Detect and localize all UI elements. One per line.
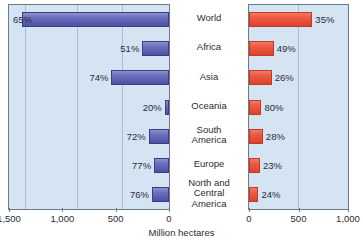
- right-bar-row: 24%: [249, 187, 348, 202]
- category-label-column: WorldAfricaAsiaOceaniaSouthAmericaEurope…: [172, 4, 246, 210]
- category-label-line: Oceania: [191, 101, 226, 112]
- right-bar-row: 80%: [249, 100, 348, 115]
- left-bar-row: 76%: [9, 187, 169, 202]
- left-bar-row: 74%: [9, 70, 169, 85]
- right-axis-tick-label: 1,000: [336, 212, 360, 226]
- left-bar-row: 20%: [9, 100, 169, 115]
- right-bar: [249, 100, 261, 115]
- left-chart-panel: 65%51%74%20%72%77%76%: [8, 4, 170, 210]
- left-bar-value-label: 76%: [130, 190, 149, 200]
- right-bar-row: 49%: [249, 41, 348, 56]
- left-bar: [165, 100, 169, 115]
- left-bar-value-label: 74%: [89, 73, 108, 83]
- left-bar: [154, 158, 169, 173]
- chart-root: 65%51%74%20%72%77%76% 35%49%26%80%28%23%…: [0, 0, 363, 243]
- left-bar: [142, 41, 169, 56]
- left-axis-tick-label: 1,500: [0, 212, 21, 226]
- left-bar-value-label: 65%: [13, 15, 18, 25]
- left-bar-row: 72%: [9, 129, 169, 144]
- right-x-axis: 05001,000: [248, 212, 349, 226]
- right-bar-row: 23%: [249, 158, 348, 173]
- category-label-line: World: [197, 13, 222, 24]
- right-bar: [249, 12, 312, 27]
- right-axis-tick-label: 0: [246, 212, 251, 226]
- category-label: Africa: [172, 33, 246, 62]
- right-bar-row: 26%: [249, 70, 348, 85]
- left-bar-row: 65%: [9, 12, 169, 27]
- left-x-axis: 1,5001,0005000: [8, 212, 170, 226]
- left-bar: [149, 129, 169, 144]
- right-bar: [249, 70, 272, 85]
- right-bar-row: 35%: [249, 12, 348, 27]
- left-axis-tick-label: 1,000: [50, 212, 74, 226]
- category-label-line: America: [192, 199, 227, 210]
- category-label: Oceania: [172, 91, 246, 120]
- category-label-line: America: [192, 135, 227, 146]
- left-bar-row: 51%: [9, 41, 169, 56]
- left-axis-tick-label: 0: [166, 212, 171, 226]
- left-bar-row: 77%: [9, 158, 169, 173]
- right-bar-value-label: 49%: [277, 44, 296, 54]
- right-bar-value-label: 35%: [315, 15, 334, 25]
- right-bar-row: 28%: [249, 129, 348, 144]
- category-label: Asia: [172, 62, 246, 91]
- left-bar-value-label: 51%: [120, 44, 139, 54]
- category-label-line: Europe: [194, 159, 225, 170]
- right-bar-rows: 35%49%26%80%28%23%24%: [249, 5, 348, 209]
- category-label: North andCentralAmerica: [172, 179, 246, 208]
- right-bar-value-label: 80%: [264, 103, 283, 113]
- category-label: Europe: [172, 150, 246, 179]
- category-label: SouthAmerica: [172, 121, 246, 150]
- left-bar-value-label: 72%: [127, 132, 146, 142]
- left-axis-tick-label: 500: [108, 212, 124, 226]
- right-bar: [249, 41, 274, 56]
- category-label: World: [172, 4, 246, 33]
- left-bar: [22, 12, 169, 27]
- left-bar-rows: 65%51%74%20%72%77%76%: [9, 5, 169, 209]
- x-axis-title: Million hectares: [0, 227, 363, 238]
- left-bar: [111, 70, 169, 85]
- right-chart-panel: 35%49%26%80%28%23%24%: [248, 4, 349, 210]
- right-bar: [249, 129, 263, 144]
- right-bar-value-label: 26%: [275, 73, 294, 83]
- category-label-line: Africa: [197, 42, 221, 53]
- right-bar: [249, 187, 258, 202]
- left-bar-value-label: 20%: [143, 103, 162, 113]
- category-label-line: Asia: [200, 72, 218, 83]
- left-bar: [152, 187, 169, 202]
- right-bar-value-label: 24%: [261, 190, 280, 200]
- right-axis-tick-label: 500: [291, 212, 307, 226]
- right-bar: [249, 158, 260, 173]
- right-bar-value-label: 28%: [266, 132, 285, 142]
- left-bar-value-label: 77%: [132, 161, 151, 171]
- right-bar-value-label: 23%: [263, 161, 282, 171]
